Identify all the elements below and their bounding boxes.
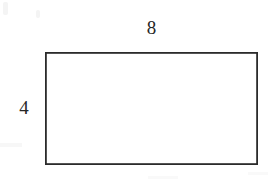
paper-speck	[148, 176, 178, 179]
figure-canvas: 8 4	[0, 0, 271, 186]
paper-speck	[36, 10, 40, 18]
paper-speck	[3, 2, 8, 15]
height-dimension-label: 4	[14, 98, 34, 117]
paper-speck	[248, 172, 268, 175]
rectangle-outline	[46, 53, 257, 164]
paper-speck	[0, 143, 22, 147]
rectangle-shape	[45, 52, 258, 165]
rectangle-outline-svg	[45, 52, 258, 165]
width-dimension-label: 8	[0, 18, 271, 37]
